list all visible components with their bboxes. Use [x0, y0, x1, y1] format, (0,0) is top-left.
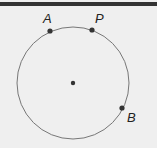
label-a: A: [42, 11, 52, 26]
center-point: [71, 81, 75, 85]
label-b: B: [127, 110, 136, 125]
point-b: [119, 105, 124, 110]
point-p: [89, 27, 94, 32]
point-a: [47, 28, 52, 33]
label-p: P: [95, 11, 104, 26]
circle-diagram: A P B: [0, 0, 157, 148]
